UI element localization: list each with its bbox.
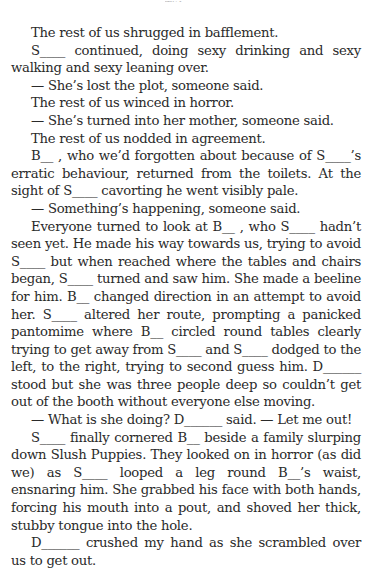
paragraph: S____ continued, doing sexy drinking and… [11,42,361,77]
paragraph: The rest of us shrugged in bafflement. [11,24,361,42]
paragraph: D______ crushed my hand as she scrambled… [11,534,361,569]
paragraph: Everyone turned to look at B__ , who S__… [11,218,361,412]
document-body: The rest of us shrugged in bafflement. S… [11,24,361,569]
paragraph: — She’s lost the plot, someone said. [11,77,361,95]
running-head: Title [165,0,205,2]
paragraph: B__ , who we’d forgotten about because o… [11,147,361,200]
paragraph: — What is she doing? D______ said. — Let… [11,411,361,429]
paragraph: The rest of us winced in horror. [11,94,361,112]
paragraph: — Something’s happening, someone said. [11,200,361,218]
paragraph: — She’s turned into her mother, someone … [11,112,361,130]
paragraph: S____ finally cornered B__ beside a fami… [11,429,361,535]
paragraph: The rest of us nodded in agreement. [11,130,361,148]
